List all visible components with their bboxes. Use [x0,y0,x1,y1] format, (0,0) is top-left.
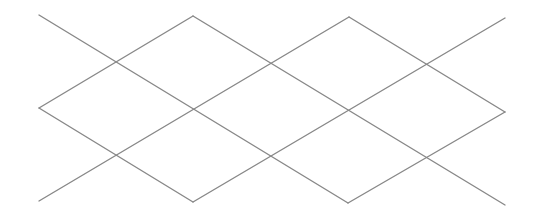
lattice-line-up-4 [348,112,505,203]
lattice-lines [39,15,505,205]
diamond-lattice-diagram [0,0,534,209]
lattice-line-up-1 [39,17,349,201]
lattice-line-up-2 [193,18,505,202]
